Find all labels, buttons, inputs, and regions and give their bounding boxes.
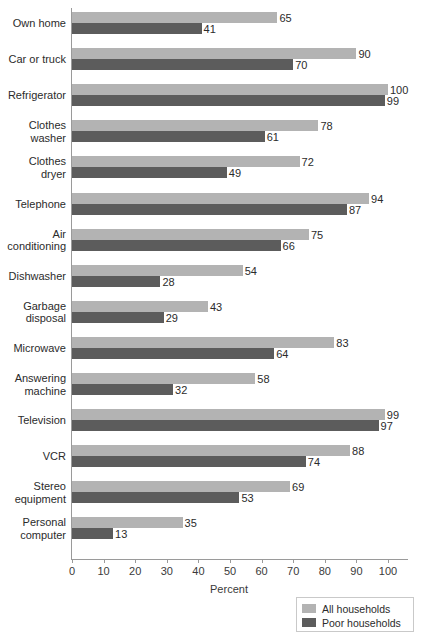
legend-label: All households [322,603,390,615]
bar-all-households [72,48,356,59]
bar-all-households [72,301,208,312]
x-tick-label-30: 30 [161,565,173,577]
bar-all-households [72,373,255,384]
bar-poor-households [72,456,306,467]
bar-poor-households [72,384,173,395]
category-label: VCR [0,450,66,463]
bar-group: Telephone9487 [0,193,426,215]
bar-group: Clothes dryer7249 [0,156,426,178]
bar-value-label: 35 [185,518,197,529]
bar-all-households [72,409,385,420]
x-tick-90 [356,559,357,563]
bar-group: VCR8874 [0,445,426,467]
bar-value-label: 70 [295,60,307,71]
bar-value-label: 75 [311,230,323,241]
x-axis-line [71,559,408,560]
bar-poor-households [72,131,265,142]
bar-value-label: 29 [166,313,178,324]
bar-group: Garbage disposal4329 [0,301,426,323]
bar-value-label: 87 [349,205,361,216]
bar-value-label: 28 [162,277,174,288]
bar-group: Personal computer3513 [0,517,426,539]
bar-all-households [72,12,277,23]
legend-swatch-icon [302,604,316,613]
x-tick-label-50: 50 [224,565,236,577]
bar-value-label: 78 [320,121,332,132]
x-tick-label-20: 20 [129,565,141,577]
legend-swatch-icon [302,618,316,627]
legend-item: Poor households [302,616,408,629]
x-tick-50 [230,559,231,563]
x-tick-label-10: 10 [97,565,109,577]
category-label: Own home [0,17,66,30]
x-tick-0 [72,559,73,563]
bar-value-label: 53 [241,493,253,504]
x-tick-label-60: 60 [255,565,267,577]
bar-all-households [72,156,300,167]
bar-group: Microwave8364 [0,337,426,359]
bar-poor-households [72,95,385,106]
category-label: Answering machine [0,372,66,397]
legend-label: Poor households [322,617,401,629]
bar-poor-households [72,23,202,34]
x-tick-label-100: 100 [379,565,397,577]
bar-group: Answering machine5832 [0,373,426,395]
bar-value-label: 58 [257,374,269,385]
bar-poor-households [72,492,239,503]
category-label: Personal computer [0,516,66,541]
category-label: Garbage disposal [0,300,66,325]
bar-all-households [72,265,243,276]
bar-group: Dishwasher5428 [0,265,426,287]
bar-value-label: 72 [302,157,314,168]
bar-all-households [72,120,318,131]
category-label: Clothes dryer [0,155,66,180]
category-label: Dishwasher [0,270,66,283]
category-label: Clothes washer [0,119,66,144]
bar-value-label: 83 [336,338,348,349]
bar-value-label: 32 [175,385,187,396]
bar-all-households [72,84,388,95]
bar-value-label: 66 [283,241,295,252]
bar-poor-households [72,167,227,178]
bar-poor-households [72,59,293,70]
bar-poor-households [72,312,164,323]
bar-value-label: 13 [115,529,127,540]
bar-value-label: 90 [358,49,370,60]
bar-poor-households [72,420,379,431]
bar-poor-households [72,204,347,215]
x-tick-label-80: 80 [319,565,331,577]
bar-value-label: 64 [276,349,288,360]
bar-all-households [72,445,350,456]
category-label: Car or truck [0,53,66,66]
bar-poor-households [72,276,160,287]
legend-item: All households [302,602,408,615]
bar-value-label: 74 [308,457,320,468]
x-tick-30 [167,559,168,563]
bar-value-label: 94 [371,194,383,205]
bar-group: Television9997 [0,409,426,431]
bar-all-households [72,193,369,204]
x-axis-title: Percent [71,583,387,595]
x-tick-10 [104,559,105,563]
bar-all-households [72,517,183,528]
category-label: Refrigerator [0,89,66,102]
bar-value-label: 49 [229,168,241,179]
category-label: Microwave [0,342,66,355]
bar-group: Clothes washer7861 [0,120,426,142]
bar-poor-households [72,528,113,539]
bar-group: Air conditioning7566 [0,229,426,251]
bar-value-label: 65 [279,13,291,24]
bar-value-label: 54 [245,266,257,277]
bar-group: Stereo equipment6953 [0,481,426,503]
x-tick-60 [262,559,263,563]
bar-value-label: 88 [352,446,364,457]
bar-chart: 0102030405060708090100 Percent Own home6… [0,0,426,644]
x-tick-label-90: 90 [350,565,362,577]
x-tick-100 [388,559,389,563]
category-label: Stereo equipment [0,480,66,505]
category-label: Television [0,414,66,427]
bar-value-label: 43 [210,302,222,313]
x-tick-40 [198,559,199,563]
plot-area: 0102030405060708090100 Percent Own home6… [0,0,426,644]
x-tick-label-0: 0 [69,565,75,577]
